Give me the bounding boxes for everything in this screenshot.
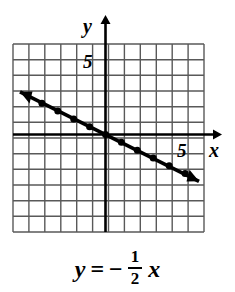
x-axis-label: x [209, 140, 219, 160]
graph-canvas [0, 0, 235, 245]
y-axis-tick-label-5: 5 [83, 52, 93, 71]
equation-fraction: 1 2 [128, 248, 143, 287]
plotted-point [54, 108, 61, 115]
plotted-point [134, 147, 141, 154]
equation-caption: y = − 1 2 x [0, 246, 235, 292]
y-axis-label: y [83, 16, 92, 36]
plotted-point [38, 100, 45, 107]
plotted-point [118, 139, 125, 146]
coordinate-plane: y x 5 5 [0, 0, 235, 245]
equation-minus-sign: − [109, 256, 123, 283]
fraction-denominator: 2 [128, 270, 143, 287]
plotted-point [182, 170, 189, 177]
x-axis-tick-label-5: 5 [177, 141, 187, 160]
equation-equals: = [90, 256, 104, 283]
x-axis-arrow-icon [213, 130, 222, 140]
equation-lhs: y [75, 256, 86, 283]
plotted-point [150, 155, 157, 162]
plotted-point [70, 115, 77, 122]
y-axis-arrow-icon [101, 15, 111, 24]
equation-variable: x [148, 256, 160, 283]
plotted-point [102, 131, 109, 138]
plotted-point [166, 162, 173, 169]
plotted-point [86, 123, 93, 130]
fraction-numerator: 1 [128, 248, 143, 265]
graph-figure: y x 5 5 y = − 1 2 x [0, 0, 235, 292]
